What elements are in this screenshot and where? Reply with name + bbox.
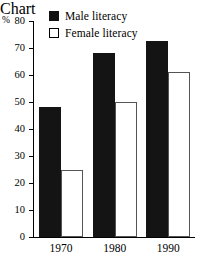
bar-female-1970: [61, 170, 83, 238]
bar-male-1970: [39, 107, 61, 237]
y-axis-tick: 70: [29, 48, 33, 49]
x-axis-line: [33, 237, 195, 238]
y-axis-tick: 10: [29, 210, 33, 211]
x-axis-label-1990: 1990: [157, 241, 180, 255]
y-axis-tick-label: 30: [15, 149, 26, 162]
legend-label-male: Male literacy: [65, 10, 127, 22]
y-axis-tick-label: 60: [15, 68, 26, 81]
y-axis-unit-label: %: [2, 15, 10, 25]
bar-male-1990: [146, 41, 168, 237]
y-axis-tick: 60: [29, 75, 33, 76]
bar-group-container: [34, 21, 195, 237]
y-axis-tick: 50: [29, 102, 33, 103]
x-axis-label-1980: 1980: [103, 241, 126, 255]
y-axis-tick-label: 70: [15, 41, 26, 54]
y-axis-tick-label: 50: [15, 95, 26, 108]
y-axis-tick-label: 80: [15, 14, 26, 27]
y-axis-tick: 0: [29, 237, 33, 238]
y-axis-tick: 40: [29, 129, 33, 130]
y-axis-tick: 20: [29, 183, 33, 184]
y-axis-tick: 30: [29, 156, 33, 157]
x-axis-category-labels: 197019801990: [33, 241, 195, 257]
literacy-bar-chart: Male literacy Female literacy % 01020304…: [0, 0, 201, 268]
y-axis-tick-label: 40: [15, 122, 26, 135]
y-axis-tick-label: 20: [15, 176, 26, 189]
y-axis-tick-label: 10: [15, 203, 26, 216]
bar-male-1980: [93, 53, 115, 237]
y-axis-tick-label: 0: [20, 230, 25, 243]
legend-swatch-male-icon: [49, 11, 59, 21]
x-axis-label-1970: 1970: [50, 241, 73, 255]
y-axis-tick: 80: [29, 21, 33, 22]
bar-female-1990: [168, 72, 190, 237]
bar-female-1980: [115, 102, 137, 237]
plot-area: 01020304050607080: [33, 21, 195, 238]
